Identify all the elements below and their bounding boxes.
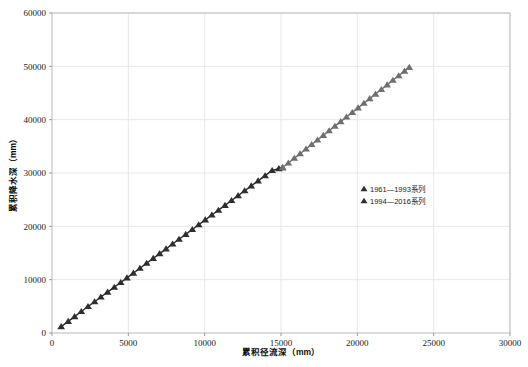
x-tick-label: 10000 — [193, 338, 216, 348]
x-tick-label: 30000 — [499, 338, 522, 348]
y-axis-title: 累积降水深（mm） — [8, 134, 18, 212]
chart-container: 050001000015000200002500030000 010000200… — [0, 0, 528, 367]
y-tick-label: 20000 — [24, 222, 47, 232]
y-tick-label: 50000 — [24, 62, 47, 72]
legend-label: 1994—2016系列 — [370, 196, 425, 206]
x-tick-label: 25000 — [422, 338, 445, 348]
x-tick-label: 5000 — [119, 338, 138, 348]
chart-canvas: 050001000015000200002500030000 010000200… — [0, 0, 528, 367]
y-tick-label: 40000 — [24, 115, 47, 125]
y-tick-label: 0 — [42, 328, 47, 338]
x-axis-title: 累积径流深（mm） — [242, 347, 320, 357]
legend-label: 1961—1993系列 — [370, 184, 425, 194]
y-tick-label: 10000 — [24, 275, 47, 285]
y-axis-tick-labels: 0100002000030000400005000060000 — [24, 8, 47, 338]
x-tick-label: 20000 — [346, 338, 369, 348]
y-tick-label: 30000 — [24, 168, 47, 178]
x-tick-label: 0 — [50, 338, 55, 348]
y-tick-label: 60000 — [24, 8, 47, 18]
